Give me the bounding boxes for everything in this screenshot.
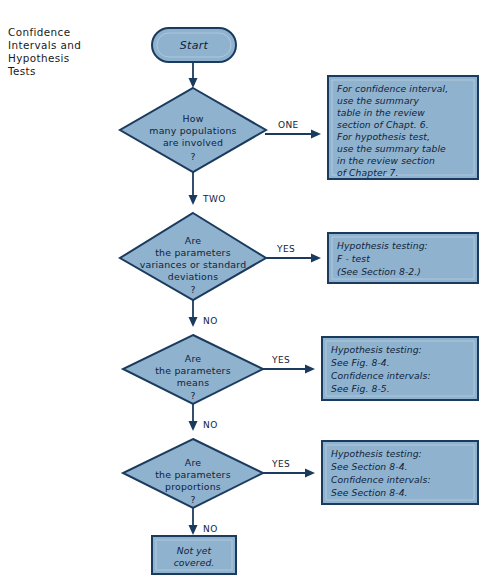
decision4-line-1: Are (185, 457, 201, 468)
arrowhead-start-to-decision1 (189, 78, 198, 88)
decision2-line-1: Are (185, 235, 201, 246)
arrowhead-decision2-to-decision3 (189, 317, 198, 327)
node-start[interactable]: Start (152, 28, 236, 62)
start-label: Start (180, 39, 209, 52)
decision2-line-3: variances or standard (140, 259, 247, 270)
box3-line-2: See Fig. 8-4. (331, 357, 390, 368)
box1-line-2: use the summary (337, 95, 419, 106)
decision4-line-3: proportions (165, 481, 221, 492)
edge-label-no-2: NO (203, 420, 218, 430)
decision1-line-2: many populations (149, 125, 236, 136)
edge-label-yes-1: YES (276, 244, 295, 254)
diagram-title: Confidence Intervals and Hypothesis Test… (7, 26, 81, 77)
decision1-line-3: are involved (163, 137, 223, 148)
arrowhead-decision1-to-box1 (311, 130, 321, 139)
end-line-1: Not yet (177, 545, 212, 556)
title-line-2: Intervals and (8, 39, 81, 51)
box4-line-4: See Section 8-4. (331, 487, 408, 498)
node-end-not-covered[interactable]: Not yet covered. (152, 536, 236, 574)
node-box-proportions-reference[interactable]: Hypothesis testing: See Section 8-4. Con… (322, 441, 478, 504)
node-box-f-test[interactable]: Hypothesis testing: F - test (See Sectio… (328, 233, 478, 283)
node-decision-variances[interactable]: Are the parameters variances or standard… (120, 213, 266, 300)
box1-line-1: For confidence interval, (337, 83, 448, 94)
flowchart-diagram: Confidence Intervals and Hypothesis Test… (0, 0, 487, 583)
box4-line-2: See Section 8-4. (331, 461, 408, 472)
box2-line-1: Hypothesis testing: (337, 240, 428, 251)
box4-line-1: Hypothesis testing: (331, 448, 422, 459)
decision4-line-4: ? (190, 494, 195, 505)
decision3-line-2: the parameters (155, 365, 231, 376)
node-box-chapter-reference[interactable]: For confidence interval, use the summary… (328, 76, 478, 179)
box1-line-3: table in the review (337, 107, 425, 118)
box1-line-5: For hypothesis test, (337, 131, 430, 142)
box3-line-4: See Fig. 8-5. (331, 383, 390, 394)
decision4-line-2: the parameters (155, 469, 231, 480)
decision2-line-5: ? (190, 284, 195, 295)
arrowhead-decision2-to-box2 (311, 254, 321, 263)
box1-line-6: use the summary table (337, 143, 446, 154)
box3-line-1: Hypothesis testing: (331, 344, 422, 355)
box2-line-3: (See Section 8-2.) (337, 266, 421, 277)
edge-label-no-1: NO (203, 316, 218, 326)
box2-line-2: F - test (337, 253, 370, 264)
box3-line-3: Confidence intervals: (331, 370, 431, 381)
node-decision-means[interactable]: Are the parameters means ? (123, 335, 263, 404)
edge-label-yes-3: YES (271, 459, 290, 469)
arrowhead-decision3-to-box3 (305, 365, 315, 374)
end-line-2: covered. (174, 557, 215, 568)
arrowhead-decision1-to-decision2 (189, 195, 198, 205)
edge-label-two: TWO (202, 194, 226, 204)
decision3-line-4: ? (190, 390, 195, 401)
box4-line-3: Confidence intervals: (331, 474, 431, 485)
title-line-1: Confidence (8, 26, 70, 38)
arrowhead-decision3-to-decision4 (189, 421, 198, 431)
edge-label-no-3: NO (203, 524, 218, 534)
box1-line-4: section of Chapt. 6. (337, 119, 429, 130)
decision1-line-1: How (182, 113, 203, 124)
title-line-3: Hypothesis (8, 52, 70, 64)
decision2-line-2: the parameters (155, 247, 231, 258)
title-line-4: Tests (7, 65, 36, 77)
arrowhead-decision4-to-box4 (305, 469, 315, 478)
node-decision-proportions[interactable]: Are the parameters proportions ? (123, 439, 263, 508)
edge-label-yes-2: YES (271, 355, 290, 365)
node-box-means-reference[interactable]: Hypothesis testing: See Fig. 8-4. Confid… (322, 337, 478, 400)
decision1-line-4: ? (190, 151, 195, 162)
node-decision-populations[interactable]: How many populations are involved ? (120, 88, 266, 172)
decision3-line-1: Are (185, 353, 201, 364)
box1-line-8: of Chapter 7. (337, 167, 399, 178)
box1-line-7: in the review section (337, 155, 435, 166)
decision3-line-3: means (177, 377, 209, 388)
arrowhead-decision4-to-end (189, 525, 198, 535)
decision2-line-4: deviations (168, 271, 218, 282)
edge-label-one: ONE (278, 120, 299, 130)
